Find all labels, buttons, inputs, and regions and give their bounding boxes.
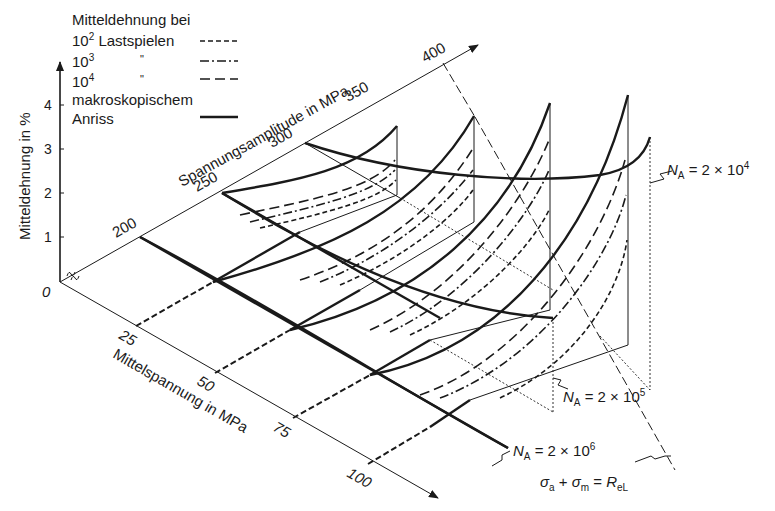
svg-text:σa + σm = ReL: σa + σm = ReL — [540, 473, 629, 493]
legend-entry-1: 102 Lastspielen — [72, 31, 174, 49]
origin-label: 0 — [42, 283, 51, 300]
front-axis-label: Mittelspannung in MPa — [111, 345, 252, 436]
z-tick-2: 2 — [44, 185, 52, 201]
z-tick-3: 3 — [44, 141, 52, 157]
back-axis: 200 250 300 350 400 Spannungsamplitude i… — [60, 39, 478, 282]
z-tick-1: 1 — [44, 229, 52, 245]
annotation-yield-limit: σa + σm = ReL — [540, 456, 671, 493]
vertical-axis: 1 2 3 4 Mitteldehnung in % 0 — [16, 62, 64, 300]
ditto-mark-2: " — [140, 73, 144, 85]
legend-entry-4: makroskopischem — [72, 91, 193, 108]
legend-entry-2: 103 — [72, 52, 95, 70]
front-axis: 25 50 75 100 Mittelspannung in MPa — [60, 282, 438, 498]
legend-entry-5: Anriss — [72, 110, 114, 127]
legend-title: Mitteldehnung bei — [72, 11, 190, 28]
ditto-mark-1: " — [140, 53, 144, 65]
front-tick-75: 75 — [271, 418, 295, 441]
strain-diagram-3d: 1 2 3 4 Mitteldehnung in % 0 200 250 300… — [0, 0, 775, 511]
z-axis-label: Mitteldehnung in % — [16, 112, 33, 240]
back-tick-400: 400 — [418, 39, 448, 66]
back-tick-200: 200 — [109, 214, 139, 241]
annotation-na-2e5: NA = 2 × 105 — [553, 378, 646, 408]
svg-text:NA = 2 × 106: NA = 2 × 106 — [513, 441, 596, 462]
svg-text:NA = 2 × 105: NA = 2 × 105 — [563, 387, 646, 408]
annotation-na-2e4: NA = 2 × 104 — [650, 160, 750, 183]
back-axis-label: Spannungsamplitude in MPa — [175, 81, 352, 189]
front-tick-100: 100 — [345, 464, 376, 492]
legend-entry-3: 104 — [72, 72, 95, 90]
legend: Mitteldehnung bei 102 Lastspielen 103 " … — [72, 11, 238, 127]
z-tick-4: 4 — [44, 97, 52, 113]
svg-text:NA = 2 × 104: NA = 2 × 104 — [667, 160, 750, 181]
annotation-na-2e6: NA = 2 × 106 — [492, 441, 596, 466]
